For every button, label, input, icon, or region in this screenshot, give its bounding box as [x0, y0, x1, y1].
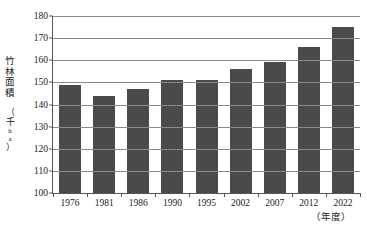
y-axis-title: 竹 林 面 積 — [2, 56, 18, 98]
bar — [59, 85, 81, 193]
bar — [332, 27, 354, 193]
y-tick-label: 100 — [22, 188, 48, 198]
y-tick-label: 160 — [22, 55, 48, 65]
y-tick-mark — [49, 82, 53, 83]
x-tick-mark — [189, 193, 190, 197]
y-tick-label: 150 — [22, 77, 48, 87]
y-tick-mark — [49, 170, 53, 171]
gridline — [53, 16, 360, 17]
y-axis-unit-char: h — [2, 127, 18, 135]
gridline — [53, 171, 360, 172]
y-tick-label: 110 — [22, 166, 48, 176]
y-axis-unit-char: 千 — [2, 118, 18, 128]
y-tick-label: 180 — [22, 11, 48, 21]
bar — [161, 80, 183, 193]
x-tick-mark — [360, 193, 361, 197]
gridline — [53, 149, 360, 150]
x-tick-mark — [121, 193, 122, 197]
bar — [230, 69, 252, 193]
y-tick-mark — [49, 60, 53, 61]
bar — [196, 80, 218, 193]
y-axis-unit-char: ） — [2, 143, 18, 153]
x-tick-mark — [292, 193, 293, 197]
y-axis-title-char: 竹 — [2, 56, 18, 67]
x-tick-label: 2022 — [333, 198, 352, 208]
bar-chart: 竹 林 面 積 （ 千 h a ） 1001101201301401501601… — [0, 0, 367, 229]
x-tick-mark — [258, 193, 259, 197]
x-tick-mark — [224, 193, 225, 197]
y-axis-unit-label: （ 千 h a ） — [2, 108, 18, 153]
y-tick-mark — [49, 126, 53, 127]
x-tick-mark — [53, 193, 54, 197]
gridline — [53, 82, 360, 83]
y-axis-title-char: 林 — [2, 67, 18, 78]
x-tick-mark — [326, 193, 327, 197]
x-tick-label: 1990 — [163, 198, 182, 208]
gridline — [53, 127, 360, 128]
x-axis-unit-label: （年度） — [311, 209, 351, 223]
y-tick-mark — [49, 38, 53, 39]
gridline — [53, 60, 360, 61]
x-tick-mark — [87, 193, 88, 197]
y-tick-label: 170 — [22, 33, 48, 43]
y-tick-label: 130 — [22, 122, 48, 132]
x-tick-label: 1986 — [129, 198, 148, 208]
y-tick-mark — [49, 16, 53, 17]
x-tick-label: 2007 — [265, 198, 284, 208]
x-tick-label: 1981 — [95, 198, 114, 208]
plot-area: 1001101201301401501601701801976198119861… — [52, 16, 360, 194]
x-tick-label: 1995 — [197, 198, 216, 208]
y-axis-title-char: 面 — [2, 77, 18, 88]
y-tick-label: 120 — [22, 144, 48, 154]
bar — [93, 96, 115, 193]
gridline — [53, 105, 360, 106]
y-axis-title-char: 積 — [2, 88, 18, 99]
x-tick-mark — [155, 193, 156, 197]
x-tick-label: 1976 — [61, 198, 80, 208]
gridline — [53, 38, 360, 39]
y-tick-label: 140 — [22, 100, 48, 110]
y-tick-mark — [49, 148, 53, 149]
x-tick-label: 2002 — [231, 198, 250, 208]
y-tick-mark — [49, 104, 53, 105]
x-tick-label: 2012 — [299, 198, 318, 208]
